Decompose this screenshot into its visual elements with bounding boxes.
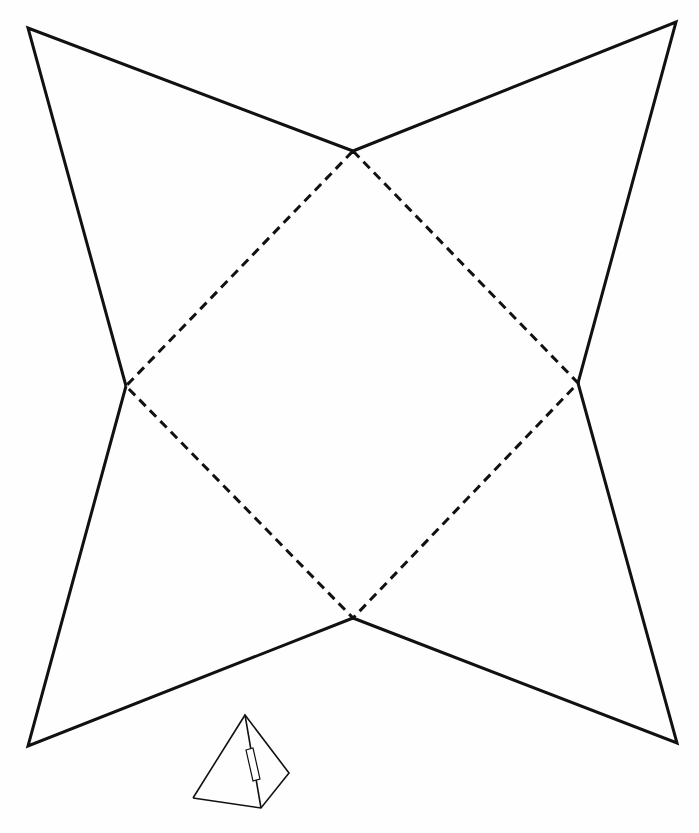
fold-lines — [126, 151, 578, 618]
pyramid-outline — [193, 715, 289, 808]
assembled-pyramid-icon — [193, 715, 289, 808]
pyramid-tab-icon — [246, 748, 260, 781]
bottom-right-flap — [353, 383, 677, 743]
base-square-fold — [126, 151, 578, 618]
cut-lines — [28, 22, 677, 746]
bottom-left-flap — [28, 386, 353, 746]
top-left-flap — [28, 28, 353, 386]
pyramid-net-diagram — [0, 0, 699, 833]
top-right-flap — [353, 22, 676, 383]
pyramid-net-page — [0, 0, 699, 833]
